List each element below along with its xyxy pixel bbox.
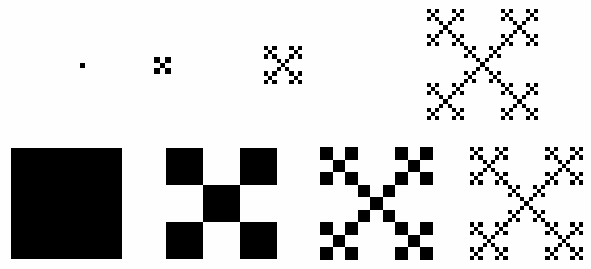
top-stage-3 [427, 9, 538, 120]
bottom-stage-1 [166, 148, 277, 259]
bottom-stage-0 [11, 148, 122, 259]
top-stage-1 [154, 57, 171, 74]
bottom-stage-2 [320, 147, 433, 260]
top-stage-2 [264, 46, 302, 84]
fractal-figure [0, 0, 591, 269]
top-stage-0 [80, 63, 85, 68]
bottom-stage-3 [470, 147, 583, 260]
